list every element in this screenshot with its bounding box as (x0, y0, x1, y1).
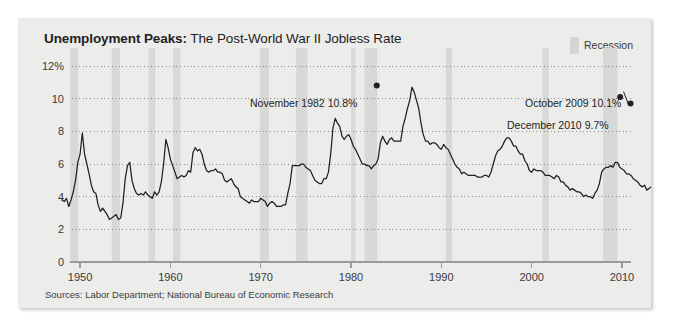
x-tick-label: 1970 (248, 271, 272, 283)
unemployment-line-chart: 024681012% 1950196019701980199020002010 (18, 18, 651, 308)
recession-band (260, 48, 269, 262)
y-tick-label: 8 (58, 125, 64, 137)
annotation-peak-2009: October 2009 10.1% (525, 97, 621, 109)
x-tick-label: 2000 (519, 271, 543, 283)
x-tick-label: 1960 (158, 271, 182, 283)
annotation-end-2010: December 2010 9.7% (507, 119, 609, 131)
recession-bands (70, 48, 617, 262)
peak-marker (628, 101, 634, 107)
recession-band (365, 48, 378, 262)
y-tick-label: 2 (58, 223, 64, 235)
x-tick-label: 1950 (68, 271, 92, 283)
x-tick-label: 1990 (429, 271, 453, 283)
recession-band (296, 48, 308, 262)
peak-marker (374, 83, 380, 89)
y-tick-label: 10 (52, 93, 64, 105)
x-axis (70, 262, 631, 268)
chart-panel: Unemployment Peaks: The Post-World War I… (18, 18, 651, 308)
source-note: Sources: Labor Department; National Bure… (45, 289, 333, 300)
recession-band (112, 48, 120, 262)
y-tick-label: 0 (58, 256, 64, 268)
recession-band (603, 48, 617, 262)
x-tick-label: 1980 (339, 271, 363, 283)
y-tick-label: 6 (58, 158, 64, 170)
recession-band (173, 48, 180, 262)
x-axis-labels: 1950196019701980199020002010 (68, 271, 634, 283)
recession-band (149, 48, 155, 262)
x-tick-label: 2010 (610, 271, 634, 283)
recession-band (542, 48, 548, 262)
annotation-peak-1982: November 1982 10.8% (250, 97, 357, 109)
recession-band (70, 48, 78, 262)
recession-band (351, 48, 356, 262)
y-tick-label: 12% (42, 60, 64, 72)
y-axis-labels: 024681012% (42, 60, 64, 268)
